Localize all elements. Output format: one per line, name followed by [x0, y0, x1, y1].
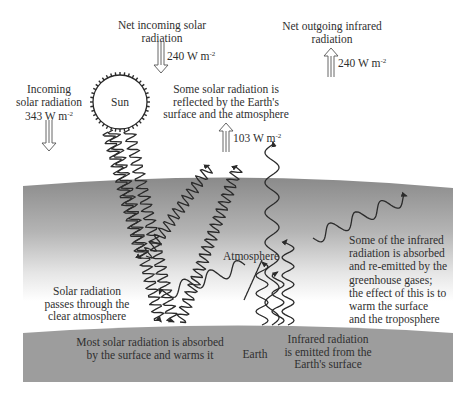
- greenhouse-line-2: radiation is absorbed: [349, 247, 461, 260]
- greenhouse-line-7: and the troposphere: [349, 313, 461, 326]
- net-outgoing-label: Net outgoing infrared radiation: [276, 20, 388, 45]
- reflected-label: Some solar radiation is reflected by the…: [160, 83, 292, 121]
- greenhouse-line-3: and re-emitted by the: [349, 260, 461, 273]
- atmosphere-label: Atmosphere: [216, 250, 286, 263]
- incoming-line-2: solar radiation: [2, 96, 96, 109]
- net-incoming-value: 240 W m-2: [167, 48, 215, 63]
- incoming-value: 343 W m-2: [2, 108, 96, 123]
- absorbed-line-1: Most solar radiation is absorbed: [70, 336, 230, 349]
- earth-label: Earth: [235, 348, 275, 361]
- incoming-line-1: Incoming: [2, 83, 96, 96]
- absorbed-line-2: by the surface and warms it: [70, 349, 230, 362]
- net-outgoing-line-1: Net outgoing infrared: [276, 20, 388, 33]
- passes-line-2: passes through the: [34, 298, 140, 311]
- net-incoming-arrow-icon: [154, 42, 168, 73]
- passes-line-1: Solar radiation: [34, 285, 140, 298]
- greenhouse-line-6: warm the surface: [349, 300, 461, 313]
- infrared-line-1: Infrared radiation: [278, 333, 378, 346]
- infrared-emitted-label: Infrared radiation is emitted from the E…: [278, 333, 378, 371]
- infrared-line-3: Earth's surface: [278, 358, 378, 371]
- reflected-arrow-icon: [219, 123, 233, 152]
- sun-label: Sun: [100, 96, 140, 109]
- passes-through-label: Solar radiation passes through the clear…: [34, 285, 140, 323]
- net-outgoing-value: 240 W m-2: [338, 55, 386, 70]
- infrared-line-2: is emitted from the: [278, 346, 378, 359]
- absorbed-label: Most solar radiation is absorbed by the …: [70, 336, 230, 361]
- greenhouse-line-4: greenhouse gases;: [349, 274, 461, 287]
- reflected-value: 103 W m-2: [233, 130, 281, 145]
- net-incoming-line-2: radiation: [110, 32, 214, 45]
- greenhouse-line-5: the effect of this is to: [349, 287, 461, 300]
- net-outgoing-arrow-icon: [324, 48, 338, 77]
- reflected-line-1: Some solar radiation is: [160, 83, 292, 96]
- greenhouse-label: Some of the infrared radiation is absorb…: [349, 234, 461, 326]
- net-incoming-label: Net incoming solar radiation: [110, 19, 214, 44]
- reflected-line-2: reflected by the Earth's: [160, 96, 292, 109]
- net-outgoing-line-2: radiation: [276, 33, 388, 46]
- incoming-arrow-icon: [42, 120, 56, 151]
- greenhouse-line-1: Some of the infrared: [349, 234, 461, 247]
- incoming-label: Incoming solar radiation 343 W m-2: [2, 83, 96, 123]
- passes-line-3: clear atmosphere: [34, 310, 140, 323]
- reflected-line-3: surface and the atmosphere: [160, 108, 292, 121]
- net-incoming-line-1: Net incoming solar: [110, 19, 214, 32]
